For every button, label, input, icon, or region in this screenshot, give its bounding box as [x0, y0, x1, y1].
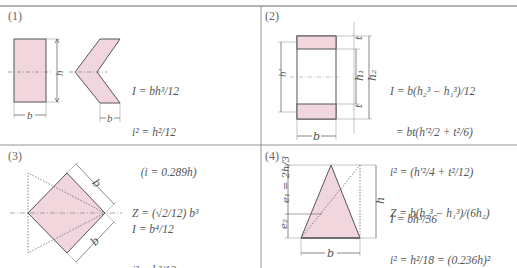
panel-3-label: (3)	[8, 149, 22, 164]
dim-e2: e₂	[278, 219, 289, 229]
formula-moment-of-inertia: I = b⁴/12	[132, 223, 198, 237]
top-flange	[297, 36, 336, 49]
dim-b: b	[313, 130, 320, 143]
formula-radius-of-gyration: i² = (h′²/4 + t²/12)	[390, 166, 490, 180]
formula-radius-of-gyration: i² = h²/18 = (0.236h)²	[390, 254, 490, 268]
formula-moment-of-inertia: I = bh³/12	[132, 85, 198, 99]
panel-1-diagram: h b b	[8, 39, 120, 124]
panel-1-label: (1)	[8, 9, 22, 24]
panel-4-formulas: I = bh³/36 i² = h²/18 = (0.236h)² Z₁ = b…	[390, 186, 490, 268]
rectangle-section	[14, 39, 46, 102]
formula-moment-of-inertia: I = b(h₂³ − h₁³)/12	[390, 85, 490, 99]
chevron-section	[75, 39, 120, 103]
triangle-section	[301, 165, 360, 238]
dim-h-prime: h′	[276, 69, 288, 78]
formula-radius-of-gyration: i² = h²/12	[132, 126, 198, 140]
formula-radius-of-gyration: i² = b²/12	[132, 264, 198, 268]
panel-4-label: (4)	[265, 149, 279, 164]
dim-b-upper: b	[89, 176, 103, 190]
formula-moment-of-inertia-alt: = bt(h′²/2 + t²/6)	[390, 126, 490, 140]
dim-e1: e₁ = 2h/3	[280, 156, 291, 203]
dim-h: h	[374, 197, 387, 204]
dim-h2: h₂	[366, 70, 379, 82]
panel-2-diagram: h′ t h₁ t h₂ b	[276, 22, 379, 143]
dim-h1: h₁	[353, 70, 366, 82]
panel-3-diagram: b b	[10, 162, 122, 264]
dim-b: b	[27, 109, 33, 121]
dim-b: b	[327, 247, 334, 260]
dim-b-2: b	[107, 112, 113, 124]
formula-moment-of-inertia: I = bh³/36	[390, 213, 490, 227]
panel-4-diagram: h e₁ = 2h/3 e₂ b	[278, 156, 387, 260]
dim-h: h	[53, 70, 65, 76]
formula-radius-value: (i = 0.289h)	[132, 166, 198, 180]
panel-2-label: (2)	[265, 9, 279, 24]
bottom-flange	[297, 104, 336, 119]
panel-3-formulas: I = b⁴/12 i² = b²/12 Z = (√2/12) b³	[132, 196, 198, 268]
